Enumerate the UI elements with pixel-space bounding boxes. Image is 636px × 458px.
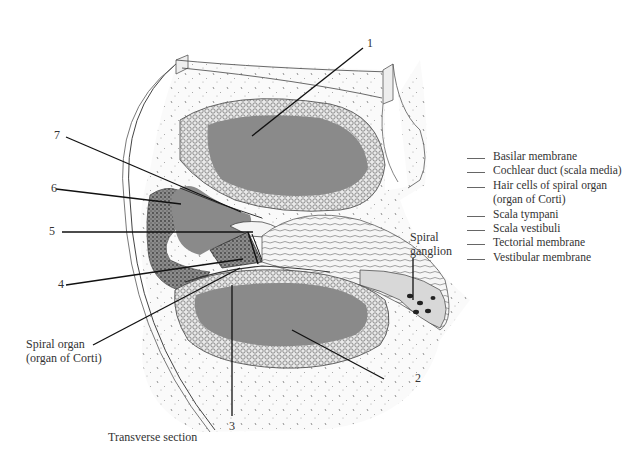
label-number-3: 3 [229,419,235,434]
answer-blank[interactable] [467,221,485,231]
key-item-vestibular-membrane: Vestibular membrane [467,250,622,264]
key-item-scala-vestibuli: Scala vestibuli [467,221,622,235]
answer-blank[interactable] [467,250,485,260]
label-number-5: 5 [49,224,55,239]
label-number-2: 2 [415,371,421,386]
spiral-organ-label-line1: Spiral organ [26,337,102,351]
label-number-6: 6 [51,181,57,196]
spacer [467,192,485,201]
label-number-1: 1 [367,36,373,51]
spiral-ganglion-label-line2: ganglion [410,244,452,258]
key-item-cochlear-duct: Cochlear duct (scala media) [467,163,622,177]
answer-blank[interactable] [467,149,485,159]
key-item-hair-cells-continuation: (organ of Corti) [467,192,622,206]
key-item-basilar-membrane: Basilar membrane [467,149,622,163]
answer-blank[interactable] [467,163,485,173]
key-item-hair-cells: Hair cells of spiral organ [467,178,622,192]
spiral-ganglion-label-line1: Spiral [410,230,452,244]
label-number-4: 4 [58,277,64,292]
spiral-organ-label-line2: (organ of Corti) [26,351,102,365]
label-key-list: Basilar membrane Cochlear duct (scala me… [467,149,622,264]
label-number-7: 7 [54,128,60,143]
key-item-scala-tympani: Scala tympani [467,207,622,221]
figure-caption: Transverse section [108,430,197,444]
spiral-ganglion-label: Spiral ganglion [410,230,452,258]
spiral-organ-label: Spiral organ (organ of Corti) [26,337,102,365]
answer-blank[interactable] [467,207,485,217]
key-item-tectorial-membrane: Tectorial membrane [467,235,622,249]
answer-blank[interactable] [467,235,485,245]
answer-blank[interactable] [467,178,485,188]
